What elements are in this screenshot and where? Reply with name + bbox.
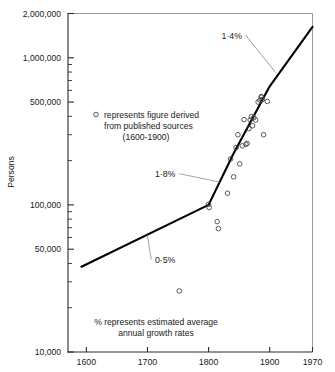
x-tick-label-1900: 1900 (260, 357, 280, 367)
x-tick-label-1800: 1800 (199, 357, 219, 367)
annotation-leader-line (147, 235, 151, 259)
annotation-label-0: 1·4% (222, 31, 243, 41)
data-point (225, 191, 230, 196)
data-point (207, 205, 212, 210)
data-point (177, 289, 182, 294)
data-point (237, 162, 242, 167)
x-axis-major-ticks (86, 347, 312, 352)
legend-line-1: represents figure derived (104, 110, 199, 120)
annotation-label-2: 0·5% (155, 255, 176, 265)
growth-rate-annotations: 1·4%1·8%0·5% (147, 31, 275, 265)
y-tick-label-2000000: 2,000,000 (23, 9, 61, 19)
data-point (242, 117, 247, 122)
axes (68, 13, 313, 353)
data-point (261, 132, 266, 137)
footnote: % represents estimated average annual gr… (94, 317, 218, 338)
y-tick-label-50000: 50,000 (35, 244, 62, 254)
open-circle-marker-icon (94, 112, 99, 117)
legend-line-2: from published sources (104, 121, 193, 131)
annotation-label-1: 1·8% (155, 169, 176, 179)
data-point (265, 99, 270, 104)
y-axis-tick-labels: 2,000,0001,000,000500,000100,00050,00010… (23, 9, 61, 358)
y-axis-title: Persons (6, 156, 16, 188)
legend: represents figure derived from published… (94, 110, 200, 142)
y-tick-label-1000000: 1,000,000 (23, 53, 61, 63)
y-tick-label-500000: 500,000 (30, 97, 61, 107)
footnote-line-2: annual growth rates (118, 328, 193, 338)
data-point (231, 175, 236, 180)
x-axis-tick-labels: 16001700180019001970 (77, 357, 323, 367)
population-growth-chart: 2,000,0001,000,000500,000100,00050,00010… (0, 0, 335, 372)
trend-line (81, 27, 312, 267)
data-point (216, 226, 221, 231)
chart-container: 2,000,0001,000,000500,000100,00050,00010… (0, 0, 335, 372)
annotation-leader-line (179, 174, 219, 182)
x-tick-label-1700: 1700 (138, 357, 158, 367)
y-tick-label-100000: 100,000 (30, 200, 61, 210)
data-point (250, 123, 255, 128)
y-tick-label-10000: 10,000 (35, 347, 62, 357)
x-tick-label-1600: 1600 (77, 357, 97, 367)
footnote-line-1: % represents estimated average (94, 317, 218, 327)
data-point (245, 141, 250, 146)
plot-frame (68, 14, 313, 353)
data-point (215, 219, 220, 224)
y-axis-minor-ticks (68, 65, 72, 308)
legend-line-3: (1600-1900) (123, 132, 170, 142)
annotation-leader-line (246, 35, 276, 72)
x-tick-label-1970: 1970 (303, 357, 323, 367)
data-point (236, 132, 241, 137)
trend-line-path (81, 27, 312, 267)
